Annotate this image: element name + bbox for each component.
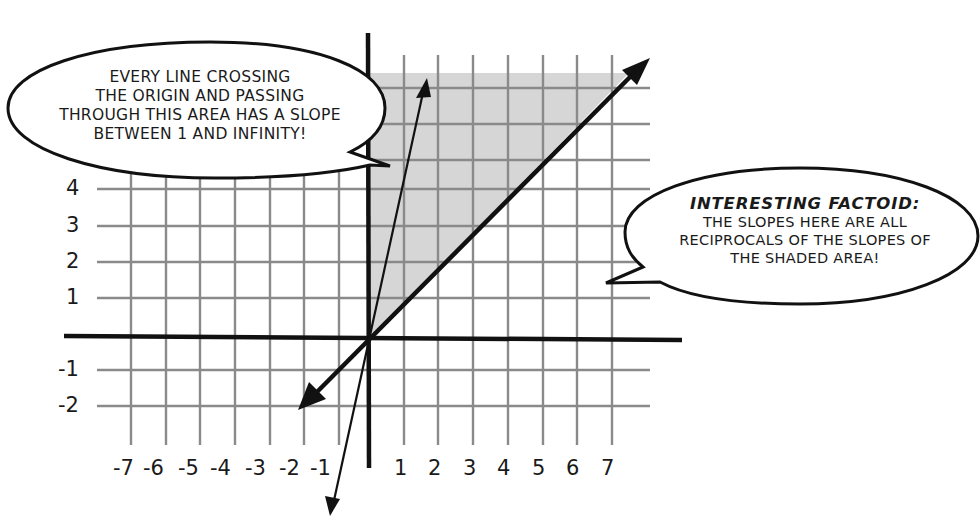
x-tick-label: -2 [279, 458, 300, 479]
bubble-right-text: INTERESTING FACTOID: THE SLOPES HERE ARE… [640, 195, 970, 267]
y-tick-label: 2 [66, 251, 79, 272]
x-tick-label: -7 [113, 458, 134, 479]
bubble-left-line-1: EVERY LINE CROSSING [30, 68, 370, 87]
x-tick-label: 3 [463, 458, 476, 479]
x-tick-label: -6 [143, 458, 164, 479]
y-tick-label: 3 [66, 215, 79, 236]
y-tick-label: -1 [58, 359, 79, 380]
bubble-left-line-2: THE ORIGIN AND PASSING [30, 87, 370, 106]
x-tick-label: 2 [428, 458, 441, 479]
x-tick-label: -1 [310, 458, 331, 479]
x-tick-label: 4 [497, 458, 510, 479]
coordinate-plane-diagram: EVERY LINE CROSSING THE ORIGIN AND PASSI… [0, 0, 980, 526]
bubble-left-line-4: BETWEEN 1 AND INFINITY! [30, 125, 370, 144]
bubble-right-line-3: THE SHADED AREA! [640, 249, 970, 267]
x-tick-label: 5 [532, 458, 545, 479]
arrowhead-down [325, 496, 340, 516]
y-tick-label: -2 [58, 395, 79, 416]
x-tick-label: -3 [245, 458, 266, 479]
y-tick-label: 1 [66, 287, 79, 308]
x-tick-label: -5 [178, 458, 199, 479]
x-tick-label: 1 [394, 458, 407, 479]
y-tick-label: 4 [66, 178, 79, 199]
bubble-left-line-3: THROUGH THIS AREA HAS A SLOPE [30, 106, 370, 125]
bubble-left-text: EVERY LINE CROSSING THE ORIGIN AND PASSI… [30, 68, 370, 144]
x-tick-label: 7 [601, 458, 614, 479]
x-tick-label: -4 [210, 458, 231, 479]
bubble-right-line-1: THE SLOPES HERE ARE ALL [640, 213, 970, 231]
x-tick-label: 6 [566, 458, 579, 479]
bubble-right-title: INTERESTING FACTOID: [640, 195, 970, 213]
bubble-right-line-2: RECIPROCALS OF THE SLOPES OF [640, 231, 970, 249]
